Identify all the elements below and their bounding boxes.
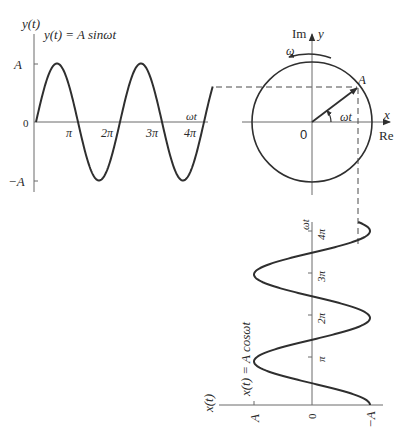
cosine-time-axis-label: ωt bbox=[299, 218, 311, 230]
imag-axis-label: Im bbox=[292, 26, 306, 41]
cosine-tick-minus-A: −A bbox=[363, 411, 378, 428]
x-label: x bbox=[383, 107, 390, 122]
phasor-projection-diagram: y(t) y(t) = A sinωt A 0 −A π 2π 3π 4π ωt… bbox=[0, 0, 406, 441]
cosine-x-axis-label: x(t) bbox=[201, 394, 216, 413]
sine-tick-minus-A: −A bbox=[8, 174, 25, 189]
sine-tick-pi: π bbox=[66, 126, 73, 140]
sine-tick-4pi: 4π bbox=[184, 126, 197, 140]
cosine-tick-pi: π bbox=[315, 356, 327, 362]
rotation-label: ω bbox=[286, 44, 294, 58]
cosine-plot: x(t) x(t) = A cosωt A 0 −A π 2π 3π 4π ωt bbox=[201, 218, 383, 428]
cosine-tick-2pi: 2π bbox=[315, 313, 327, 325]
point-A-label: A bbox=[357, 72, 366, 87]
sine-tick-2pi: 2π bbox=[101, 126, 114, 140]
sine-tick-A: A bbox=[13, 57, 22, 72]
phasor-diagram: Im y ω A ωt x 0 Re bbox=[242, 26, 394, 246]
real-axis-label: Re bbox=[379, 128, 394, 143]
cosine-tick-0: 0 bbox=[306, 413, 318, 419]
origin-label: 0 bbox=[300, 127, 307, 142]
y-label: y bbox=[316, 26, 324, 41]
cosine-tick-3pi: 3π bbox=[315, 271, 327, 284]
angle-label: ωt bbox=[340, 110, 352, 124]
sine-tick-3pi: 3π bbox=[145, 126, 159, 140]
sine-equation: y(t) = A sinωt bbox=[42, 27, 116, 42]
cosine-tick-A: A bbox=[247, 414, 262, 423]
cosine-equation: x(t) = A cosωt bbox=[238, 321, 253, 397]
sine-x-axis-label: ωt bbox=[186, 110, 198, 122]
rotation-arrow bbox=[289, 54, 331, 58]
sine-tick-0: 0 bbox=[23, 117, 29, 129]
cosine-tick-4pi: 4π bbox=[315, 229, 327, 241]
sine-y-axis-label: y(t) bbox=[20, 16, 40, 31]
angle-arc bbox=[327, 111, 331, 123]
sine-plot: y(t) y(t) = A sinωt A 0 −A π 2π 3π 4π ωt bbox=[8, 16, 213, 192]
